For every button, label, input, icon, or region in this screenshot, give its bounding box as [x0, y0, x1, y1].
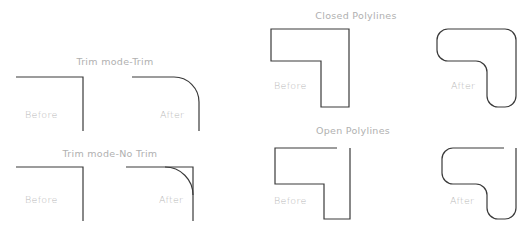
corner-before-shape — [16, 77, 83, 131]
panel-trim: Trim mode-Trim Before After — [16, 56, 199, 131]
closed-polyline-after — [437, 29, 516, 107]
open-polyline-after — [442, 148, 516, 219]
open-polyline-before — [275, 148, 350, 219]
before-label: Before — [274, 195, 307, 206]
panel-open-polylines: Open Polylines Before After — [274, 125, 516, 219]
after-label: After — [159, 194, 183, 205]
panel-title: Open Polylines — [316, 125, 390, 136]
fillet-diagram: Trim mode-Trim Before After Trim mode-No… — [0, 0, 528, 232]
corner-after-filleted-shape — [132, 77, 199, 131]
before-label: Before — [25, 194, 58, 205]
before-label: Before — [25, 109, 58, 120]
panel-title: Trim mode-No Trim — [62, 148, 158, 159]
panel-closed-polylines: Closed Polylines Before After — [271, 10, 516, 107]
before-label: Before — [274, 80, 307, 91]
panel-title: Closed Polylines — [315, 10, 396, 21]
after-label: After — [450, 195, 474, 206]
closed-polyline-before — [271, 29, 349, 107]
fillet-arc — [165, 167, 193, 195]
after-label: After — [451, 80, 475, 91]
panel-title: Trim mode-Trim — [75, 56, 153, 67]
panel-no-trim: Trim mode-No Trim Before After — [16, 148, 193, 221]
after-label: After — [160, 109, 184, 120]
